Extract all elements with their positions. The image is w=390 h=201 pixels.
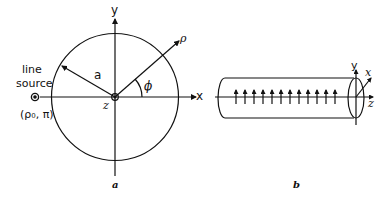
radius-label: a <box>94 69 101 81</box>
line-source-label-2: source <box>16 78 53 89</box>
phi-angle-arc <box>135 79 142 97</box>
z-axis-label-a: z <box>103 100 109 111</box>
figure-b <box>215 70 373 125</box>
cylinder-left-end <box>218 78 225 118</box>
caption-a: a <box>112 180 118 190</box>
figure-a <box>31 19 196 176</box>
line-source-dot <box>34 96 36 98</box>
x-axis-label-b: x <box>365 67 371 78</box>
y-axis-label-a: y <box>111 4 118 16</box>
diagram-canvas <box>0 0 390 201</box>
x-axis-label-a: x <box>196 90 203 102</box>
phi-label: ϕ <box>144 80 152 92</box>
radius-arrow <box>62 66 115 97</box>
rho-label: ρ <box>180 33 186 44</box>
line-source-label-1: line <box>22 64 42 75</box>
caption-b: b <box>293 180 300 190</box>
z-axis-label-b: z <box>368 98 374 109</box>
y-axis-label-b: y <box>351 60 358 71</box>
origin-z-dot <box>114 96 116 98</box>
source-coordinates: (ρ₀, π) <box>20 109 54 120</box>
